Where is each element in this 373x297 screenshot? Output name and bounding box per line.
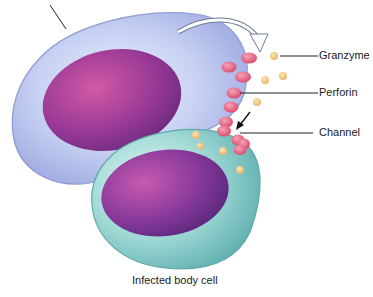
granzyme-label: Granzyme — [319, 49, 370, 61]
diagram-canvas: Granzyme Perforin Channel Infected body … — [0, 0, 373, 297]
cell-diagram — [0, 0, 373, 297]
killer-cell-pointer-line — [50, 5, 66, 29]
channel-label: Channel — [319, 126, 360, 138]
infected-cell-caption: Infected body cell — [132, 274, 218, 286]
channel-arrow-icon — [236, 112, 250, 130]
perforin-label: Perforin — [319, 86, 358, 98]
